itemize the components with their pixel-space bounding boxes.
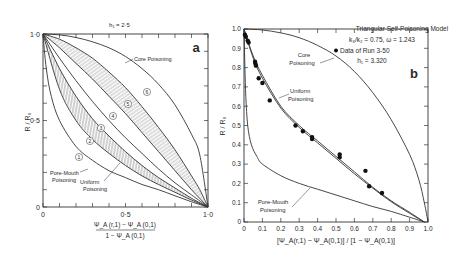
x-axis-label-numerator: Ψ_A (r,1) − Ψ_A (0,1)	[94, 221, 156, 229]
data-point	[293, 123, 297, 127]
plot-frame-b	[244, 29, 428, 222]
y-tick-label: 0.6	[232, 103, 241, 110]
curve-number: 3	[100, 125, 103, 131]
panel-a-title: h₁ = 2·5	[109, 22, 131, 28]
leader-line	[320, 58, 334, 63]
y-tick-label: 0	[36, 204, 40, 211]
y-tick-label: 0.5	[232, 122, 241, 129]
data-point	[301, 129, 305, 133]
data-point	[363, 169, 367, 173]
uniform-label-2: Poisoning	[288, 96, 313, 102]
leader-line	[104, 163, 120, 181]
data-point	[380, 191, 384, 195]
x-axis-label: [Ψ_A(r,1) − Ψ_A(0,1)] / [1 − Ψ_A(0,1)]	[277, 237, 395, 245]
leader-line	[80, 169, 88, 172]
pore-mouth-label-2: Poisoning	[260, 207, 285, 213]
x-tick-label: 0·5	[120, 211, 130, 218]
curve-b-3	[244, 29, 424, 222]
y-tick-label: 0.8	[232, 64, 241, 71]
x-tick-label: 0.7	[368, 225, 377, 232]
core-poisoning-label: Core Poisoning	[134, 56, 172, 62]
y-axis-label: R / R₀	[219, 116, 226, 135]
pore-mouth-label-2: Poisoning	[52, 177, 76, 183]
panel-b: 000.10.10.20.20.30.30.40.40.50.50.60.60.…	[219, 25, 449, 245]
uniform-label-1: Uniform	[290, 88, 310, 94]
y-tick-label: 0	[237, 218, 241, 225]
legend-title: Triangular Self-Poisoning Model	[356, 25, 449, 33]
legend-data-label: Data of Run 3-50	[340, 47, 390, 54]
uniform-label-1: Uniform	[80, 179, 100, 185]
legend-params: k₃/k₂ = 0.75, ω = 1.243	[349, 36, 415, 43]
panel-b-label: b	[410, 66, 418, 81]
uniform-label-2: Poisoning	[83, 186, 107, 192]
legend-h-value: h₁ = 3.320	[357, 57, 387, 64]
x-tick-label: 0	[41, 211, 45, 218]
y-tick-label: 0.1	[232, 199, 241, 206]
core-label-2: Poisoning	[289, 60, 314, 66]
curve-number: 1	[78, 154, 81, 160]
y-tick-label: 1.0	[232, 25, 241, 32]
y-tick-label: 0.3	[232, 160, 241, 167]
pore-mouth-label-1: Pore-Mouth	[258, 199, 288, 205]
data-point	[268, 98, 272, 102]
data-point	[260, 81, 264, 85]
leader-line	[292, 188, 310, 207]
x-tick-label: 0.8	[387, 225, 396, 232]
y-tick-label: 0.7	[232, 83, 241, 90]
y-tick-label: 1·0	[30, 31, 40, 38]
core-label-1: Core	[298, 52, 311, 58]
data-point	[337, 155, 341, 159]
curve-b-1	[244, 29, 424, 222]
curve-b-0	[244, 29, 428, 222]
data-point	[257, 76, 261, 80]
x-tick-label: 1·0	[203, 211, 213, 218]
x-tick-label: 0.6	[350, 225, 359, 232]
y-tick-label: 0.4	[232, 141, 241, 148]
data-point	[254, 63, 258, 67]
x-tick-label: 0.4	[313, 225, 322, 232]
curve-number: 4	[112, 113, 115, 119]
y-tick-label: 0.2	[232, 180, 241, 187]
x-tick-label: 0	[242, 225, 246, 232]
x-axis-label-denominator: 1 − Ψ_A (0,1)	[105, 232, 144, 240]
legend-marker	[334, 49, 338, 53]
x-tick-label: 0.2	[276, 225, 285, 232]
curve-number: 5	[127, 101, 130, 107]
y-tick-label: 0.9	[232, 45, 241, 52]
x-tick-label: 0.1	[258, 225, 267, 232]
data-point	[246, 40, 250, 44]
curve-number: 6	[146, 89, 149, 95]
curve-number: 2	[89, 138, 92, 144]
x-tick-label: 1.0	[423, 225, 432, 232]
pore-mouth-label-1: Pore-Mouth	[50, 170, 79, 176]
y-tick-label: 0·5	[30, 117, 40, 124]
data-point	[244, 35, 248, 39]
figure: 00·51·000·51·0h₁ = 2·5aR / R₀Ψ_A (r,1) −…	[0, 0, 460, 261]
curve-b-2	[244, 29, 424, 222]
panel-a: 00·51·000·51·0h₁ = 2·5aR / R₀Ψ_A (r,1) −…	[24, 22, 213, 240]
panel-a-label: a	[192, 40, 200, 55]
x-tick-label: 0.9	[405, 225, 414, 232]
data-point	[367, 184, 371, 188]
x-tick-label: 0.5	[331, 225, 340, 232]
x-tick-label: 0.3	[295, 225, 304, 232]
y-axis-label: R / R₀	[24, 112, 31, 131]
data-point	[310, 137, 314, 141]
